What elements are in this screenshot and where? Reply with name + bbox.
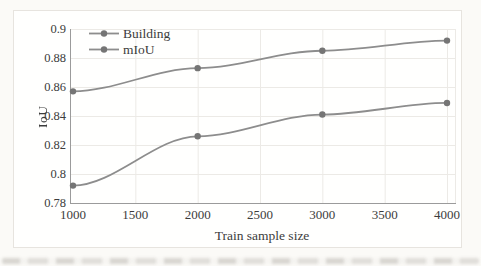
x-tick-label: 3000: [296, 207, 348, 222]
legend-entry-miou: mIoU: [88, 42, 170, 57]
data-point-building: [444, 100, 450, 106]
y-tick-label: 0.82: [28, 137, 66, 153]
y-tick-label: 0.88: [28, 50, 66, 66]
legend-line-marker-icon: [88, 27, 120, 40]
legend-entry-building: Building: [88, 26, 170, 41]
x-tick-label: 3500: [359, 207, 411, 222]
legend-label: mIoU: [123, 42, 155, 57]
y-tick-label: 0.86: [28, 79, 66, 95]
data-point-miou: [319, 48, 325, 54]
legend-line-marker-icon: [88, 43, 120, 56]
legend-label: Building: [123, 26, 170, 41]
x-tick-label: 2500: [234, 207, 286, 222]
data-point-building: [70, 182, 76, 188]
legend: BuildingmIoU: [88, 26, 170, 57]
y-tick-label: 0.84: [28, 108, 66, 124]
x-tick-label: 4000: [421, 207, 473, 222]
data-point-miou: [70, 88, 76, 94]
chart-figure: IoU Train sample size 0.90.880.860.840.8…: [13, 10, 462, 248]
x-tick-label: 1500: [109, 207, 161, 222]
data-point-miou: [194, 65, 200, 71]
x-axis-title: Train sample size: [162, 228, 362, 244]
figure-page: IoU Train sample size 0.90.880.860.840.8…: [0, 0, 481, 266]
data-point-miou: [444, 37, 450, 43]
cropped-caption-blur: [2, 258, 479, 264]
x-tick-label: 1000: [47, 207, 99, 222]
y-tick-label: 0.9: [28, 21, 66, 37]
y-tick-label: 0.8: [28, 166, 66, 182]
x-tick-label: 2000: [172, 207, 224, 222]
data-point-building: [194, 133, 200, 139]
data-point-building: [319, 111, 325, 117]
